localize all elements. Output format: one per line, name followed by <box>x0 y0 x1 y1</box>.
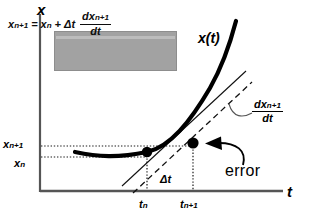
formula-fraction-numerator: dxn+1 <box>80 11 111 25</box>
formula-equals: = <box>31 18 37 30</box>
marker-point-on-curve <box>142 147 152 157</box>
formula-fraction-denominator: dt <box>80 25 111 38</box>
derivative-denominator: dt <box>252 112 283 124</box>
y-tick-label-xn: xn <box>14 158 25 169</box>
axis-label-t: t <box>287 184 292 199</box>
error-arrow-head <box>205 137 222 151</box>
formula-plus: + <box>55 18 61 30</box>
curve-label-xt: x(t) <box>198 31 220 45</box>
delta-t-label: Δt <box>160 174 171 185</box>
x-tick-label-tn: tn <box>139 199 148 210</box>
formula-lhs: xn+1 <box>8 18 28 30</box>
derivative-numerator: dxn+1 <box>252 99 283 112</box>
formula-text: xn+1 = xn + Δt dxn+1 dt <box>8 11 111 37</box>
error-label: error <box>225 163 260 179</box>
formula-delta-t: Δt <box>64 18 75 30</box>
formula-term1: xn <box>41 18 52 30</box>
y-tick-label-xn1: xn+1 <box>3 139 23 150</box>
error-arrow-group <box>205 137 244 166</box>
formula-fraction: dxn+1 dt <box>80 11 111 37</box>
marker-point-euler-estimate <box>187 137 198 148</box>
euler-integration-figure: xn+1 = xn + Δt dxn+1 dt x t xn+1 xn tn t… <box>0 0 310 221</box>
derivative-leader-curve <box>229 104 252 116</box>
derivative-callout-label: dxn+1 dt <box>252 99 283 124</box>
derivative-leader-group <box>229 104 252 116</box>
x-tick-label-tn1: tn+1 <box>180 199 198 210</box>
